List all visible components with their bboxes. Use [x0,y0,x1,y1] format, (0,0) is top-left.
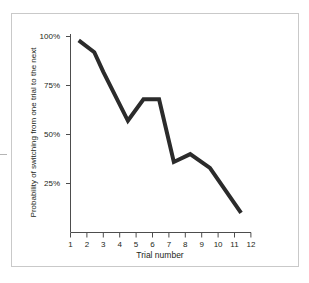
x-tick-label-9: 9 [194,240,210,249]
x-tick-label-10: 10 [210,240,226,249]
x-axis-title: Trial number [70,250,250,260]
x-axis-ticks [71,233,251,238]
x-tick-label-3: 3 [95,240,111,249]
x-tick-label-11: 11 [227,240,243,249]
data-series-line [79,40,241,212]
x-tick-label-4: 4 [112,240,128,249]
x-tick-label-7: 7 [161,240,177,249]
x-tick-label-2: 2 [79,240,95,249]
x-tick-label-6: 6 [145,240,161,249]
x-tick-label-12: 12 [243,240,259,249]
y-axis-ticks [66,37,71,184]
x-tick-label-5: 5 [128,240,144,249]
y-tick-label-100: 100% [26,32,60,41]
x-tick-label-1: 1 [63,240,79,249]
figure-root: 100% 75% 50% 25% 1 2 3 4 5 6 7 8 9 10 11… [0,0,309,283]
x-tick-label-8: 8 [177,240,193,249]
y-axis-title: Probability of switching from one trial … [29,48,38,218]
